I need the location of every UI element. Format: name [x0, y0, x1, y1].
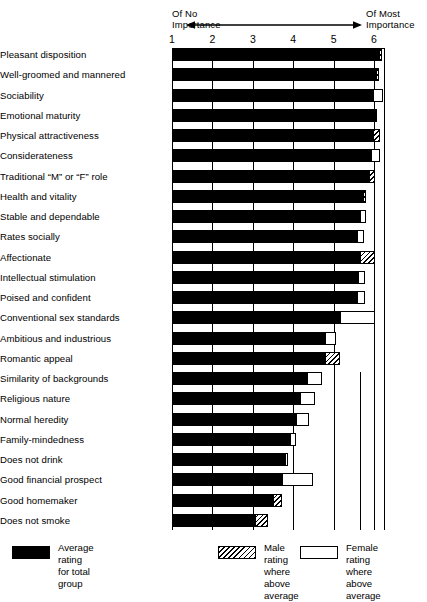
bar-segment-average: [172, 494, 273, 507]
bar-segment-male: [255, 514, 268, 527]
bar-segment-average: [172, 129, 373, 142]
bar-segment-average: [172, 473, 282, 486]
category-label: Physical attractiveness: [0, 130, 168, 142]
bar-segment-average: [172, 271, 358, 284]
category-label: Rates socially: [0, 231, 168, 243]
bar-segment-average: [172, 190, 363, 203]
bar-row: [172, 68, 385, 81]
bar-row: [172, 129, 385, 142]
bar-row: [172, 109, 385, 122]
bar-segment-average: [172, 311, 340, 324]
category-label: Similarity of backgrounds: [0, 373, 168, 385]
bar-segment-average: [172, 453, 285, 466]
bar-row: [172, 149, 385, 162]
category-label: Good homemaker: [0, 495, 168, 507]
bar-row: [172, 251, 385, 264]
legend-label: Average rating for total group: [58, 542, 94, 590]
bar-segment-average: [172, 68, 376, 81]
bar-segment-male: [325, 352, 340, 365]
bar-segment-male: [376, 68, 379, 81]
bar-row: [172, 453, 385, 466]
category-label: Sociability: [0, 90, 168, 102]
category-label: Does not smoke: [0, 515, 168, 527]
bar-row: [172, 433, 385, 446]
category-label: Affectionate: [0, 252, 168, 264]
bar-segment-average: [172, 210, 360, 223]
category-label: Family-mindedness: [0, 434, 168, 446]
bar-segment-female: [357, 291, 365, 304]
bar-segment-female: [371, 149, 380, 162]
bar-row: [172, 291, 385, 304]
category-label-column: Pleasant dispositionWell-groomed and man…: [0, 0, 168, 583]
category-label: Well-groomed and mannered: [0, 69, 168, 81]
bar-row: [172, 190, 385, 203]
bar-row: [172, 311, 385, 324]
bar-segment-male: [363, 190, 366, 203]
legend-swatch-white-outline: [300, 546, 338, 559]
axis-tick-label-5: 5: [324, 33, 344, 45]
bar-segment-average: [172, 413, 296, 426]
bar-row: [172, 89, 385, 102]
bar-row: [172, 352, 385, 365]
category-label: Traditional “M” or “F” role: [0, 171, 168, 183]
bar-segment-average: [172, 291, 357, 304]
bar-segment-female: [325, 332, 337, 345]
legend-swatch-diagonal-hatch: [218, 546, 256, 559]
bar-row: [172, 473, 385, 486]
bar-segment-average: [172, 332, 325, 345]
legend-label: Female rating where above average: [346, 542, 381, 602]
bar-segment-male: [379, 48, 382, 61]
bar-row: [172, 392, 385, 405]
category-label: Health and vitality: [0, 191, 168, 203]
plot-area: [172, 48, 385, 540]
legend-swatch-solid-black: [12, 546, 50, 559]
bar-segment-average: [172, 230, 357, 243]
bar-segment-male: [273, 494, 283, 507]
bar-segment-female: [357, 230, 364, 243]
bar-segment-female: [300, 392, 316, 405]
axis-tick-label-3: 3: [243, 33, 263, 45]
bar-segment-average: [172, 251, 360, 264]
frame-right-outer: [384, 48, 385, 530]
bar-segment-female: [296, 413, 308, 426]
bar-segment-average: [172, 109, 377, 122]
bar-row: [172, 170, 385, 183]
bar-segment-male: [369, 170, 375, 183]
bar-segment-average: [172, 352, 325, 365]
category-label: Ambitious and industrious: [0, 333, 168, 345]
bar-segment-average: [172, 514, 255, 527]
category-label: Stable and dependable: [0, 211, 168, 223]
bar-segment-female: [285, 453, 288, 466]
bar-segment-average: [172, 48, 379, 61]
bar-row: [172, 230, 385, 243]
category-label: Poised and confident: [0, 292, 168, 304]
bar-row: [172, 271, 385, 284]
bar-segment-average: [172, 433, 290, 446]
axis-annotation-right: Of Most Importance: [366, 8, 415, 30]
category-label: Pleasant disposition: [0, 49, 168, 61]
category-label: Normal heredity: [0, 414, 168, 426]
category-label: Romantic appeal: [0, 353, 168, 365]
category-label: Does not drink: [0, 454, 168, 466]
bar-segment-female: [358, 271, 365, 284]
bar-segment-average: [172, 372, 307, 385]
bar-segment-average: [172, 89, 373, 102]
category-label: Considerateness: [0, 150, 168, 162]
bar-segment-male: [360, 251, 375, 264]
bar-segment-female: [340, 311, 374, 324]
bar-segment-female: [373, 89, 383, 102]
axis-tick-label-4: 4: [283, 33, 303, 45]
category-label: Religious nature: [0, 393, 168, 405]
category-label: Intellectual stimulation: [0, 272, 168, 284]
bar-row: [172, 332, 385, 345]
legend-label: Male rating where above average: [264, 542, 299, 602]
chart-legend: Average rating for total groupMale ratin…: [0, 543, 427, 583]
bar-segment-average: [172, 170, 369, 183]
bar-segment-female: [307, 372, 323, 385]
bar-segment-female: [282, 473, 312, 486]
bar-segment-male: [373, 129, 380, 142]
axis-tick-label-6: 6: [364, 33, 384, 45]
bar-segment-female: [290, 433, 296, 446]
bar-row: [172, 372, 385, 385]
